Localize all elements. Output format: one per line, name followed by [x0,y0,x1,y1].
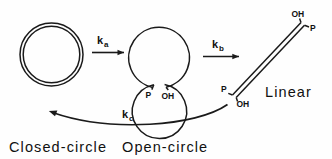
rate-label-ka: k a [97,34,109,49]
kc-subscript: c [129,114,134,123]
linear-caption: Linear [265,84,312,100]
linear-bottom-oh-label: OH [237,99,250,109]
open-circle-outer-strand [129,27,190,87]
linear-top-oh-tick [300,19,301,23]
linear-bottom-p-label: P [221,84,227,94]
arrow-ka [92,50,124,55]
arrow-kb [203,54,239,60]
arrow-kc-head [49,111,58,117]
arrow-ka-head [118,50,125,55]
rate-label-kb: k b [212,38,224,53]
arrow-kc-shaft [53,105,228,125]
linear-top-p-label: P [310,23,316,33]
kb-symbol: k [212,38,219,50]
open-circle-shape [129,27,190,138]
linear-bottom-p-tick [228,93,232,95]
open-circle-p-label: P [146,90,152,100]
closed-circle-outer-strand [20,23,83,86]
open-circle-inner-strand [132,85,186,139]
diagram-canvas: k a k b k c P OH OH P P OH Closed-circle… [0,0,332,159]
closed-circle-shape [20,23,83,86]
kb-subscript: b [219,44,224,53]
closed-circle-caption: Closed-circle [9,139,107,155]
open-circle-oh-label: OH [162,91,175,101]
closed-circle-inner-strand [23,26,80,83]
ka-symbol: k [97,34,104,46]
linear-top-p-tick [305,25,310,27]
arrow-kb-head [232,54,239,60]
linear-top-oh-label: OH [292,9,305,19]
ka-subscript: a [104,40,109,49]
kc-symbol: k [122,108,129,120]
open-circle-caption: Open-circle [122,139,208,155]
reaction-scheme-figure: k a k b k c P OH OH P P OH Closed-circle… [0,0,332,159]
arrow-kc [49,105,228,125]
